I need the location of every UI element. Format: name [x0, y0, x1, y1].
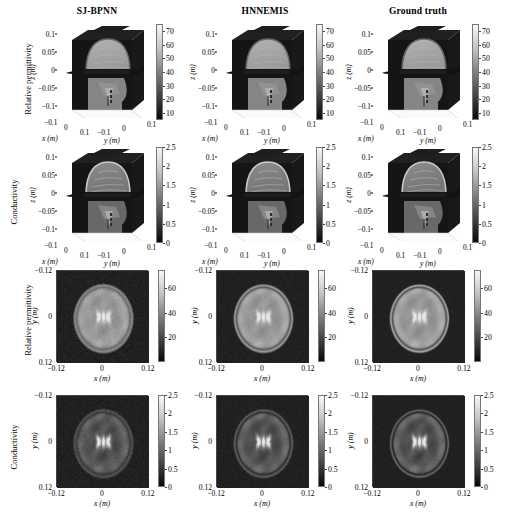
colorbar-tick-mark — [163, 72, 165, 73]
colorbar-tick-mark — [325, 337, 327, 338]
colorbar-tick-mark — [165, 450, 167, 451]
colorbar-tick-mark — [163, 224, 165, 225]
colorbar-tick-label: 2.5 — [168, 391, 178, 400]
y-axis-tick-label: 0.1 — [463, 243, 472, 252]
x-axis-tick-label: 0 — [380, 246, 384, 255]
z-axis-tick-mark — [55, 211, 57, 212]
colorbar-tick-mark — [165, 413, 167, 414]
z-axis-tick-label: 0.05 — [202, 48, 215, 57]
z-axis-tick-mark — [55, 52, 57, 53]
x-axis-tick-label: −0.12 — [207, 489, 225, 498]
colorbar-tick-label: 2 — [484, 409, 488, 418]
z-axis-tick-mark — [215, 88, 217, 89]
x-axis-label: x (m) — [94, 499, 110, 508]
x-axis-tick-label: 0 — [380, 123, 384, 132]
y-axis-tick-label: 0.1 — [307, 243, 316, 252]
colorbar-tick-mark — [479, 31, 481, 32]
colorbar-tick-label: 2 — [328, 409, 332, 418]
colorbar-tick-label: 60 — [168, 284, 176, 293]
colorbar-tick-mark — [481, 487, 483, 488]
z-axis-tick-label: 0.05 — [42, 171, 55, 180]
colorbar-tick-mark — [481, 395, 483, 396]
slice-axes-cond — [56, 395, 148, 487]
slice-image-cond — [57, 396, 149, 488]
figure-caption-fragment — [6, 512, 506, 524]
panel-3d-cond-col0: 0.10.050−0.05−0.1z (m)−0.100.1−0.100.1x … — [18, 143, 178, 261]
z-axis-tick-label: 0 — [211, 66, 215, 75]
z-axis-tick-mark — [371, 157, 373, 158]
z-axis-tick-label: −0.05 — [354, 84, 371, 93]
colorbar-tick-mark — [325, 432, 327, 433]
z-axis-tick-label: −0.1 — [42, 225, 55, 234]
orthoslice-volume-perm_c0 — [58, 26, 144, 118]
z-axis-tick-label: −0.1 — [358, 225, 371, 234]
colorbar-conductivity-2d-col0: 2.521.510.50 — [158, 395, 165, 487]
panel-2d-cond-col1: −0.1200.12−0.1200.12y (m)x (m)2.521.510.… — [178, 389, 338, 505]
orthoslice-volume-cond_c1 — [218, 149, 304, 241]
colorbar-tick-mark — [163, 45, 165, 46]
z-axis-tick-mark — [215, 106, 217, 107]
panel-2d-perm-col2: −0.1200.12−0.1200.12y (m)x (m)604020 — [334, 264, 502, 376]
slice-axes-perm — [372, 270, 464, 362]
colorbar-tick-label: 40 — [484, 308, 492, 317]
z-axis-tick-mark — [215, 70, 217, 71]
colorbar-tick-mark — [479, 45, 481, 46]
x-axis-tick-label: 0 — [64, 123, 68, 132]
z-axis-tick-mark — [55, 157, 57, 158]
colorbar-tick-mark — [163, 205, 165, 206]
scene-3d — [374, 26, 460, 118]
colorbar-tick-mark — [323, 147, 325, 148]
colorbar-tick-label: 40 — [482, 68, 490, 77]
colorbar-tick-mark — [165, 395, 167, 396]
colorbar-tick-mark — [323, 185, 325, 186]
z-axis-tick-mark — [371, 34, 373, 35]
y-axis-label: y (m) — [346, 419, 355, 463]
colorbar-tick-mark — [481, 288, 483, 289]
colorbar-permittivity-2d-col1: 604020 — [318, 270, 325, 362]
colorbar-tick-mark — [323, 166, 325, 167]
slice-image-perm — [373, 271, 465, 363]
orthoslice-volume-cond_c0 — [58, 149, 144, 241]
panel-3d-perm-col0: 0.10.050−0.05−0.1z (m)−0.100.1−0.100.1x … — [18, 20, 178, 138]
colorbar-tick-label: 30 — [326, 81, 334, 90]
z-axis-tick-mark — [215, 193, 217, 194]
z-axis-tick-mark — [55, 88, 57, 89]
colorbar-tick-mark — [479, 185, 481, 186]
colorbar-tick-mark — [479, 113, 481, 114]
z-axis-tick-mark — [55, 70, 57, 71]
colorbar-tick-mark — [323, 99, 325, 100]
x-axis-tick-label: −0.1 — [204, 241, 217, 250]
x-axis-tick-label: −0.12 — [207, 364, 225, 373]
z-axis-tick-label: 0.1 — [362, 153, 371, 162]
z-axis-tick-label: 0 — [211, 189, 215, 198]
colorbar-tick-mark — [323, 58, 325, 59]
x-axis-tick-label: −0.12 — [363, 364, 381, 373]
z-axis-tick-label: −0.1 — [202, 102, 215, 111]
z-axis-tick-label: 0 — [51, 189, 55, 198]
colorbar-tick-label: 40 — [326, 68, 334, 77]
y-axis-tick-label: 0 — [122, 247, 126, 256]
colorbar-tick-label: 0.5 — [482, 219, 492, 228]
z-axis-tick-mark — [55, 229, 57, 230]
colorbar-gradient — [472, 147, 479, 243]
z-axis-tick-label: 0.1 — [206, 153, 215, 162]
z-axis-tick-mark — [215, 229, 217, 230]
column-header-hnnemis: HNNEMIS — [180, 6, 350, 16]
x-axis-tick-label: −0.1 — [360, 241, 373, 250]
colorbar-tick-mark — [323, 31, 325, 32]
x-axis-tick-label: 0.1 — [396, 128, 405, 137]
colorbar-tick-label: 20 — [482, 95, 490, 104]
colorbar-tick-mark — [165, 469, 167, 470]
z-axis-tick-label: 0.05 — [202, 171, 215, 180]
x-axis-tick-label: 0.12 — [457, 489, 470, 498]
z-axis-label: z (m) — [344, 187, 353, 202]
colorbar-tick-label: 0 — [168, 483, 172, 492]
colorbar-permittivity-2d-col2: 604020 — [474, 270, 481, 362]
colorbar-gradient — [318, 270, 325, 362]
colorbar-gradient — [156, 147, 163, 243]
scene-3d — [218, 26, 304, 118]
colorbar-gradient — [158, 395, 165, 487]
y-axis-tick-label: 0 — [122, 124, 126, 133]
colorbar-tick-label: 1 — [166, 200, 170, 209]
orthoslice-volume-perm_c2 — [374, 26, 460, 118]
